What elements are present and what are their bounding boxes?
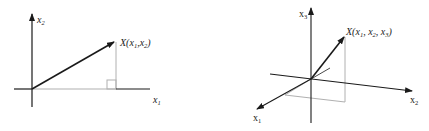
figure-3d: x3 X(x1, x2, x3) x2 x1 — [253, 8, 418, 124]
x3-axis-label: x3 — [299, 8, 307, 20]
point-label-2d: X(x1,x2) — [119, 37, 151, 49]
x1-axis-label-3d: x1 — [253, 112, 261, 124]
projection-floor-line — [285, 95, 345, 102]
vector-diagrams: x2 X(x1,x2) x1 x3 X(x1, x2, x3) x2 x1 — [0, 0, 429, 131]
x1-axis-label: x1 — [152, 94, 161, 106]
x2-axis-label: x2 — [410, 94, 418, 106]
point-label-3d: X(x1, x2, x3) — [345, 26, 393, 38]
position-vector-3d — [311, 37, 344, 79]
figure-2d: x2 X(x1,x2) x1 — [14, 14, 161, 107]
x2-axis — [270, 74, 412, 91]
x2-axis-label: x2 — [36, 14, 45, 26]
origin-short-line — [311, 68, 330, 79]
x1-axis — [257, 79, 311, 109]
right-angle-marker — [107, 80, 116, 89]
position-vector-2d — [32, 42, 114, 89]
